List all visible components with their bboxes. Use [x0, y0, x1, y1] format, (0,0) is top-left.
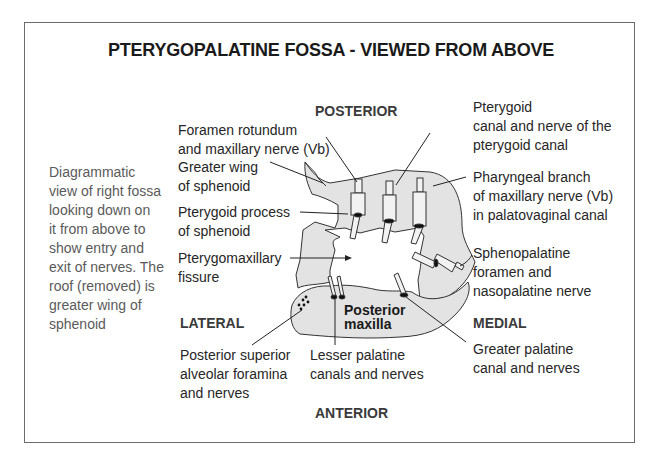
leader-foramen-rotundum: [326, 137, 357, 182]
label-pterygoid-canal: Pterygoid canal and nerve of the pterygo…: [473, 98, 612, 155]
label-psa-foramina: Posterior superior alveolar foramina and…: [180, 346, 291, 403]
posterior-maxilla-label: Posterior maxilla: [344, 303, 405, 331]
label-foramen-rotundum: Foramen rotundum and maxillary nerve (Vb…: [178, 121, 330, 159]
label-pharyngeal-branch: Pharyngeal branch of maxillary nerve (Vb…: [473, 168, 613, 225]
label-greater-palatine: Greater palatine canal and nerves: [473, 340, 580, 378]
label-pterygoid-process: Pterygoid process of sphenoid: [178, 203, 290, 241]
label-lesser-palatine: Lesser palatine canals and nerves: [310, 346, 424, 384]
label-sphenopalatine-foramen: Sphenopalatine foramen and nasopalatine …: [473, 244, 591, 301]
arrowhead-pterygomaxillary: [345, 255, 352, 261]
label-pterygomaxillary-fissure: Pterygomaxillary fissure: [178, 249, 281, 287]
fossa-diagram: [0, 0, 662, 458]
label-greater-wing: Greater wing of sphenoid: [178, 158, 258, 196]
